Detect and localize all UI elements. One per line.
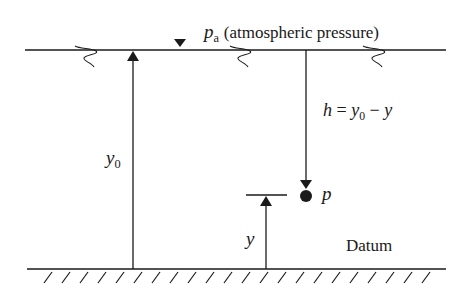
water-ripple-icon — [363, 46, 385, 67]
y0-subscript: 0 — [359, 110, 365, 123]
minus-sign: − — [370, 100, 380, 120]
pa-symbol: p — [204, 21, 214, 42]
y-symbol: y — [384, 100, 392, 120]
equals-sign: = — [337, 100, 347, 120]
y0-symbol: y — [351, 100, 359, 120]
depth-arrow — [300, 50, 312, 189]
water-ripple-icon — [230, 46, 251, 67]
pa-subscript: a — [214, 31, 219, 45]
h-symbol: h — [323, 100, 332, 120]
atmospheric-pressure-text: (atmospheric pressure) — [224, 23, 379, 42]
free-surface-triangle-icon — [174, 39, 186, 47]
ground-hatching — [44, 272, 430, 283]
y0-label: y0 — [106, 148, 121, 171]
atmospheric-pressure-label: pa (atmospheric pressure) — [204, 22, 379, 45]
y-label: y — [246, 229, 254, 248]
depth-equation-label: h = y0 − y — [323, 101, 392, 123]
point-p-marker — [300, 190, 312, 202]
point-p-label: p — [322, 184, 332, 203]
datum-label: Datum — [346, 237, 392, 254]
y0-height-arrow — [127, 51, 139, 269]
water-ripple-icon — [75, 46, 97, 67]
y0-label-subscript: 0 — [114, 157, 120, 171]
